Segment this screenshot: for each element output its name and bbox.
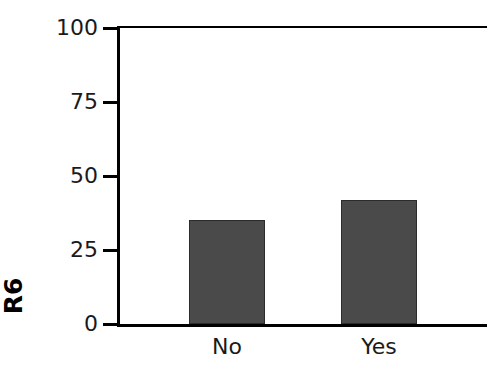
plot-area: [120, 28, 487, 324]
axis-spine-top: [117, 26, 487, 28]
bar-chart-figure: R6 0255075100 NoYes: [0, 0, 487, 369]
x-tick-label-no: No: [167, 336, 287, 358]
y-axis-title: R6: [3, 266, 25, 326]
axis-spine-left: [117, 26, 120, 327]
y-tick-label: 0: [28, 313, 98, 335]
bar-yes: [341, 200, 417, 324]
y-tick-label: 100: [28, 17, 98, 39]
bar-no: [189, 220, 265, 324]
y-tick-label: 75: [28, 91, 98, 113]
axis-spine-bottom: [117, 324, 487, 327]
x-tick-label-yes: Yes: [319, 336, 439, 358]
y-tick-label: 25: [28, 239, 98, 261]
y-tick-label: 50: [28, 165, 98, 187]
